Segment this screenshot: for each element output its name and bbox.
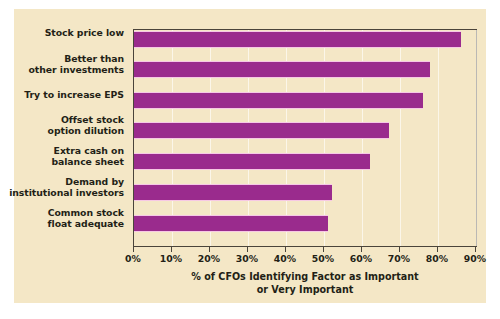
bar[interactable] [134,93,423,109]
category-axis-labels: Stock price low Better than other invest… [14,29,129,247]
category-label-line: institutional investors [0,188,124,199]
tick-mark [399,247,400,252]
tick-label: 70% [388,253,410,264]
category-label-line: Demand by [0,177,124,188]
category-label: Try to increase EPS [0,90,124,101]
tick-label: 30% [236,253,258,264]
category-label: Extra cash on balance sheet [0,146,124,167]
bar-row [134,185,476,201]
tick-mark [133,247,134,252]
tick-mark [285,247,286,252]
bar-row [134,123,476,139]
tick-label: 60% [350,253,372,264]
tick-label: 20% [198,253,220,264]
category-label-line: Extra cash on [0,146,124,157]
tick-mark [209,247,210,252]
bar-row [134,93,476,109]
tick-mark [323,247,324,252]
tick-mark [475,247,476,252]
category-label: Offset stock option dilution [0,115,124,136]
gridline [476,30,477,246]
category-label-line: option dilution [0,126,124,137]
tick-label: 0% [125,253,141,264]
category-label-line: Better than [0,54,124,65]
bar[interactable] [134,154,370,170]
chart-figure: Stock price low Better than other invest… [14,9,486,303]
category-label-line: balance sheet [0,157,124,168]
tick-label: 80% [426,253,448,264]
value-axis: 0%10%20%30%40%50%60%70%80%90% [133,247,477,263]
tick-mark [247,247,248,252]
category-label-line: Try to increase EPS [0,90,124,101]
bar[interactable] [134,216,328,232]
category-label-line: float adequate [0,219,124,230]
x-axis-title: % of CFOs Identifying Factor as Importan… [124,271,486,296]
bar-row [134,216,476,232]
category-label: Common stock float adequate [0,208,124,229]
tick-label: 40% [274,253,296,264]
tick-mark [437,247,438,252]
category-label: Stock price low [0,28,124,39]
tick-label: 90% [464,253,486,264]
x-axis-title-line: % of CFOs Identifying Factor as Importan… [124,271,486,284]
bar-row [134,62,476,78]
bar-row [134,154,476,170]
category-label: Better than other investments [0,54,124,75]
plot-area [133,29,477,247]
tick-mark [361,247,362,252]
bar[interactable] [134,62,430,78]
bar[interactable] [134,32,461,48]
tick-label: 50% [312,253,334,264]
tick-mark [171,247,172,252]
category-label: Demand by institutional investors [0,177,124,198]
category-label-line: other investments [0,65,124,76]
bar[interactable] [134,123,389,139]
tick-label: 10% [160,253,182,264]
category-label-line: Common stock [0,208,124,219]
bar[interactable] [134,185,332,201]
bar-row [134,32,476,48]
category-label-line: Stock price low [0,28,124,39]
category-label-line: Offset stock [0,115,124,126]
x-axis-title-line: or Very Important [124,284,486,297]
